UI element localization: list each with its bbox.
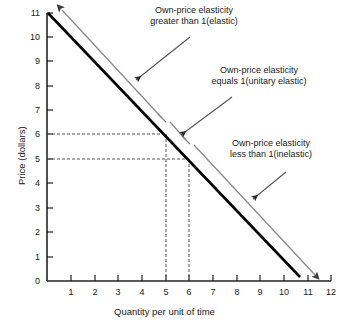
inelastic-annotation: Own-price elasticity less than 1(inelast… (198, 138, 344, 160)
guide-price-6-quantity-5 (47, 134, 166, 281)
y-tick-3: 3 (26, 203, 40, 213)
unitary-annotation: Own-price elasticity equals 1(unitary el… (180, 65, 338, 87)
y-tick-10: 10 (26, 32, 40, 42)
x-axis-ticks (71, 275, 331, 281)
guide-price-5-quantity-6 (47, 159, 189, 281)
x-tick-1: 1 (64, 287, 78, 297)
y-tick-8: 8 (26, 81, 40, 91)
y-tick-1: 1 (26, 252, 40, 262)
elastic-annotation: Own-price elasticity greater than 1(elas… (119, 5, 269, 27)
unitary-annotation-line2: equals 1(unitary elastic) (180, 76, 338, 87)
elastic-annotation-line1: Own-price elasticity (119, 5, 269, 16)
x-tick-7: 7 (206, 287, 220, 297)
x-tick-5: 5 (159, 287, 173, 297)
y-tick-4: 4 (26, 178, 40, 188)
x-axis-title: Quantity per unit of time (114, 306, 215, 317)
x-tick-12: 12 (324, 287, 338, 297)
x-tick-8: 8 (230, 287, 244, 297)
inelastic-annotation-arrow (253, 172, 286, 199)
y-tick-5: 5 (26, 154, 40, 164)
y-tick-6: 6 (26, 129, 40, 139)
y-tick-11: 11 (26, 8, 40, 18)
unitary-annotation-line1: Own-price elasticity (180, 65, 338, 76)
inelastic-annotation-line1: Own-price elasticity (198, 138, 344, 149)
x-tick-3: 3 (111, 287, 125, 297)
inelastic-annotation-line2: less than 1(inelastic) (198, 149, 344, 160)
x-tick-11: 11 (301, 287, 315, 297)
y-tick-9: 9 (26, 56, 40, 66)
y-axis-title: Price (dollars) (16, 126, 27, 185)
x-tick-4: 4 (135, 287, 149, 297)
y-tick-7: 7 (26, 105, 40, 115)
elastic-annotation-line2: greater than 1(elastic) (119, 16, 269, 27)
x-tick-9: 9 (253, 287, 267, 297)
x-tick-6: 6 (182, 287, 196, 297)
elasticity-chart: 11 10 9 8 7 6 5 4 3 2 1 0 1 2 3 4 5 6 7 … (0, 0, 346, 326)
y-axis-ticks (47, 13, 53, 257)
x-tick-10: 10 (277, 287, 291, 297)
x-tick-2: 2 (88, 287, 102, 297)
y-tick-0: 0 (26, 276, 40, 286)
y-tick-2: 2 (26, 227, 40, 237)
chart-canvas (0, 0, 346, 326)
unitary-annotation-arrow (181, 97, 232, 135)
